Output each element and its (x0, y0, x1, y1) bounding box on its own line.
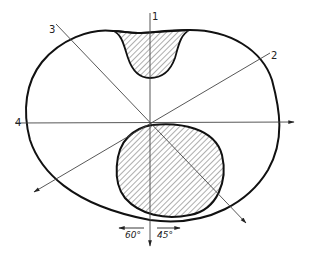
lower-hatched-region (117, 124, 224, 217)
axis-2-label: 2 (271, 50, 277, 61)
axis-1-label: 1 (152, 11, 158, 22)
axis-4-label: 4 (15, 117, 21, 128)
cross-section-diagram: 1 2 3 4 60° 45° (0, 0, 312, 255)
upper-hatched-region (113, 30, 190, 78)
axis-4-line (15, 122, 294, 123)
angle-60-label: 60° (125, 230, 141, 240)
axis-3-label: 3 (49, 24, 55, 35)
angle-45-label: 45° (157, 230, 173, 240)
